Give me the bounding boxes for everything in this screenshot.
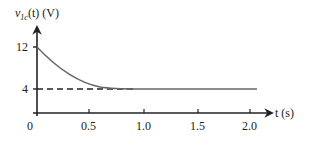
- x-tick-label-0.5: 0.5: [81, 119, 96, 133]
- y-axis-label: v1c(t) (V): [15, 6, 59, 22]
- y-tick-label-12: 12: [16, 40, 28, 54]
- x-tick-label-1.0: 1.0: [136, 119, 151, 133]
- x-tick-label-2.0: 2.0: [242, 119, 257, 133]
- decay-curve: [37, 47, 257, 89]
- origin-label: 0: [27, 119, 33, 133]
- x-axis-label: t (s): [275, 106, 294, 120]
- x-tick-label-1.5: 1.5: [190, 119, 205, 133]
- y-tick-label-4: 4: [22, 82, 28, 96]
- chart: v1c(t) (V) 12 4 0 0.5 1.0 1.5 2.0 t (s): [0, 0, 310, 142]
